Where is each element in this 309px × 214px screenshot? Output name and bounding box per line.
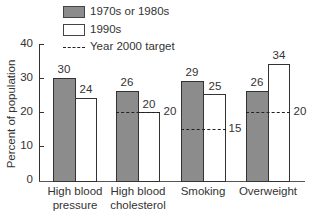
y-tick-10	[39, 146, 44, 147]
legend-dash-target	[63, 47, 85, 48]
legend-label-target: Year 2000 target	[90, 40, 175, 52]
target-line-smoking	[181, 129, 226, 130]
bar-hbp-1970s	[53, 78, 76, 182]
y-tick-label-30: 30	[13, 71, 33, 83]
y-tick-label-0: 0	[13, 173, 33, 185]
value-hbp-1970s: 30	[52, 63, 76, 75]
y-tick-label-40: 40	[13, 37, 33, 49]
y-tick-40	[39, 44, 44, 45]
value-smoking-1970s: 29	[180, 66, 204, 78]
bar-hbp-1990s	[75, 98, 97, 182]
legend-label-1990s: 1990s	[90, 23, 121, 35]
y-tick-label-20: 20	[13, 105, 33, 117]
y-tick-30	[39, 78, 44, 79]
value-overweight-target: 20	[288, 105, 309, 117]
category-overweight: Overweight	[228, 184, 308, 198]
value-chol-target: 20	[158, 105, 182, 117]
target-line-chol	[116, 112, 160, 113]
category-chol-line2: cholesterol	[98, 198, 178, 212]
value-smoking-target: 15	[223, 122, 247, 134]
bar-chol-1970s	[116, 91, 139, 182]
value-chol-1970s: 26	[115, 76, 139, 88]
bar-smoking-1990s	[203, 94, 226, 182]
value-smoking-1990s: 25	[203, 80, 227, 92]
value-overweight-1970s: 26	[245, 76, 269, 88]
y-tick-label-10: 10	[13, 139, 33, 151]
target-line-overweight	[246, 112, 290, 113]
bar-overweight-1990s	[268, 64, 290, 182]
legend-swatch-1970s	[63, 6, 85, 18]
y-axis-line	[39, 44, 40, 182]
legend-swatch-1990s	[63, 24, 85, 36]
value-hbp-1990s: 24	[74, 83, 98, 95]
bar-overweight-1970s	[246, 91, 269, 182]
value-overweight-1990s: 34	[267, 49, 291, 61]
bar-smoking-1970s	[181, 81, 204, 182]
y-tick-20	[39, 112, 44, 113]
legend-label-1970s: 1970s or 1980s	[90, 5, 169, 17]
bar-chol-1990s	[138, 112, 160, 182]
